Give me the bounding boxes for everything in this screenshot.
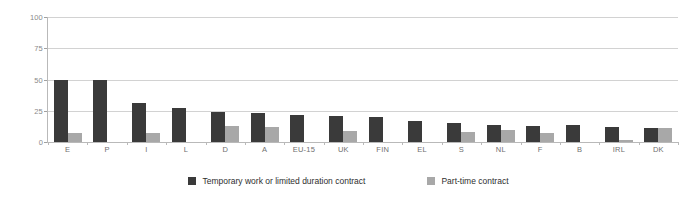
- x-axis-tick-mark: [599, 142, 600, 145]
- y-axis-tick-label: 100: [3, 13, 43, 22]
- x-axis-tick-mark: [166, 142, 167, 145]
- bar-group: [127, 17, 166, 142]
- x-axis-tick-mark: [324, 142, 325, 145]
- x-axis-tick-label: F: [521, 145, 560, 157]
- bar[interactable]: [146, 133, 160, 142]
- y-axis-tick-mark: [44, 111, 47, 112]
- x-axis-tick-mark: [678, 142, 679, 145]
- legend-label: Part-time contract: [441, 176, 508, 186]
- bar[interactable]: [132, 103, 146, 142]
- x-axis-tick-label: B: [560, 145, 599, 157]
- legend-swatch-icon: [427, 177, 435, 185]
- legend-entry-part-time[interactable]: Part-time contract: [427, 176, 508, 186]
- legend-entry-temporary-work[interactable]: Temporary work or limited duration contr…: [188, 176, 365, 186]
- y-axis-tick-label: 50: [3, 75, 43, 84]
- x-axis-tick-label: FIN: [363, 145, 402, 157]
- x-axis-tick-mark: [521, 142, 522, 145]
- bar[interactable]: [566, 125, 580, 143]
- bar[interactable]: [619, 140, 633, 143]
- bar[interactable]: [526, 126, 540, 142]
- bar-group: [166, 17, 205, 142]
- bar-group: [363, 17, 402, 142]
- x-axis-tick-label: L: [166, 145, 205, 157]
- bar-chart: 0255075100 EPILDAEU-15UKFINELSNLFBIRLDK …: [0, 0, 697, 197]
- x-axis-tick-label: S: [442, 145, 481, 157]
- x-axis-tick-mark: [402, 142, 403, 145]
- x-axis-tick-label: IRL: [599, 145, 638, 157]
- chart-legend: Temporary work or limited duration contr…: [0, 176, 697, 186]
- x-axis-tick-label: P: [87, 145, 126, 157]
- bar[interactable]: [329, 116, 343, 142]
- bar[interactable]: [290, 115, 304, 143]
- bar[interactable]: [658, 128, 672, 142]
- bar-group: [206, 17, 245, 142]
- bar-group: [481, 17, 520, 142]
- x-axis-tick-label: I: [127, 145, 166, 157]
- x-axis-tick-mark: [481, 142, 482, 145]
- bar[interactable]: [225, 126, 239, 142]
- x-axis-tick-label: A: [245, 145, 284, 157]
- bars-layer: [48, 17, 678, 142]
- bar-group: [284, 17, 323, 142]
- x-axis-tick-mark: [48, 142, 49, 145]
- bar-group: [639, 17, 678, 142]
- legend-label: Temporary work or limited duration contr…: [202, 176, 365, 186]
- x-axis-tick-mark: [127, 142, 128, 145]
- x-axis-tick-mark: [245, 142, 246, 145]
- bar[interactable]: [68, 133, 82, 142]
- bar[interactable]: [461, 132, 475, 142]
- x-axis-tick-mark: [284, 142, 285, 145]
- bar[interactable]: [501, 130, 515, 143]
- bar[interactable]: [487, 125, 501, 143]
- y-axis-tick-mark: [44, 80, 47, 81]
- bar[interactable]: [447, 123, 461, 142]
- x-axis-tick-label: EL: [402, 145, 441, 157]
- bar[interactable]: [644, 128, 658, 142]
- bar[interactable]: [211, 112, 225, 142]
- bar[interactable]: [343, 131, 357, 142]
- x-axis-tick-mark: [206, 142, 207, 145]
- y-axis-tick-label: 0: [3, 138, 43, 147]
- y-axis-tick-label: 75: [3, 44, 43, 53]
- bar[interactable]: [369, 117, 383, 142]
- x-axis-tick-mark: [87, 142, 88, 145]
- bar-group: [560, 17, 599, 142]
- x-axis-tick-label: E: [48, 145, 87, 157]
- x-axis-tick-label: EU-15: [284, 145, 323, 157]
- bar-group: [48, 17, 87, 142]
- y-axis-tick-label: 25: [3, 106, 43, 115]
- x-axis-tick-label: DK: [639, 145, 678, 157]
- bar-group: [442, 17, 481, 142]
- bar[interactable]: [265, 127, 279, 142]
- bar-group: [245, 17, 284, 142]
- bar-group: [402, 17, 441, 142]
- y-axis-ticks: 0255075100: [0, 0, 43, 197]
- y-axis-tick-mark: [44, 17, 47, 18]
- x-axis-tick-mark: [442, 142, 443, 145]
- bar-group: [599, 17, 638, 142]
- bar[interactable]: [540, 133, 554, 142]
- bar-group: [87, 17, 126, 142]
- x-axis-labels: EPILDAEU-15UKFINELSNLFBIRLDK: [48, 145, 678, 157]
- legend-swatch-icon: [188, 177, 196, 185]
- x-axis-tick-mark: [639, 142, 640, 145]
- x-axis-tick-mark: [560, 142, 561, 145]
- bar-group: [521, 17, 560, 142]
- x-axis-tick-label: UK: [324, 145, 363, 157]
- bar[interactable]: [251, 113, 265, 142]
- bar[interactable]: [605, 127, 619, 142]
- bar[interactable]: [172, 108, 186, 142]
- y-axis-tick-mark: [44, 142, 47, 143]
- bar[interactable]: [408, 121, 422, 142]
- bar[interactable]: [93, 80, 107, 143]
- x-axis-tick-mark: [363, 142, 364, 145]
- x-axis-tick-label: NL: [481, 145, 520, 157]
- x-axis-tick-label: D: [206, 145, 245, 157]
- bar[interactable]: [54, 80, 68, 143]
- y-axis-tick-mark: [44, 48, 47, 49]
- bar-group: [324, 17, 363, 142]
